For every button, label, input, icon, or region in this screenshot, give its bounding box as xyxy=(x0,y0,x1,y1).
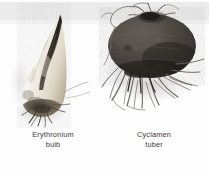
caption-genus-line: Cyclamen xyxy=(110,130,198,140)
caption-organ-line: bulb xyxy=(7,140,99,150)
caption-erythronium-bulb: Erythronium bulb xyxy=(7,130,99,149)
caption-organ-line: tuber xyxy=(110,140,198,150)
cyclamen-tuber-image xyxy=(102,3,204,110)
erythronium-bulb-image xyxy=(10,13,90,127)
caption-genus-line: Erythronium xyxy=(7,130,99,140)
botanical-figure: Erythronium bulb Cyclamen tuber xyxy=(0,0,209,170)
caption-cyclamen-tuber: Cyclamen tuber xyxy=(110,130,198,149)
